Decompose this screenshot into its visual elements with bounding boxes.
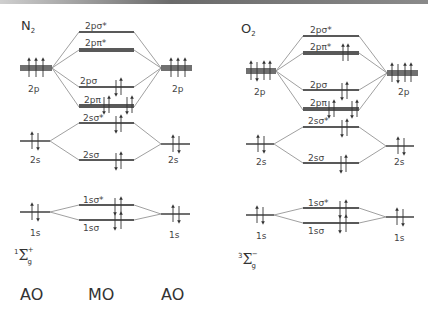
n2-mo-label: 2pσ <box>80 76 97 86</box>
o2-title: O2 <box>241 21 256 38</box>
o2-mo-label: 2pπ <box>310 98 327 108</box>
n2-ao-levels <box>20 66 192 214</box>
ao-left-label: AO <box>20 285 43 304</box>
o2-ao-2p-left: 2p <box>254 87 266 97</box>
n2-mo-label: 2pπ* <box>85 38 107 48</box>
ao-right-label: AO <box>161 285 184 304</box>
n2-mo-label: 2sσ <box>83 150 99 160</box>
n2-ao-2s-right: 2s <box>168 155 179 165</box>
n2-ao-2p-right: 2p <box>172 84 184 94</box>
n2-term-symbol: 1Σg+ <box>14 246 34 266</box>
o2-mo-label: 2pπ* <box>310 42 332 52</box>
o2-ao-2s-right: 2s <box>394 157 405 167</box>
o2-mo-label: 2pσ* <box>310 25 332 35</box>
n2-mo-label: 1sσ <box>83 223 99 233</box>
n2-ao-2s-left: 2s <box>30 155 41 165</box>
o2-mo-label: 1sσ* <box>308 198 329 208</box>
o2-ao-1s-left: 1s <box>256 231 267 241</box>
o2-mo-label: 1sσ <box>308 226 324 236</box>
n2-diagram: N2 <box>14 18 192 266</box>
n2-mo-label: 2sσ* <box>83 113 104 123</box>
o2-diagram: O2 2pσ* 2pπ* 2 <box>238 21 418 270</box>
n2-correlation-lines <box>50 32 161 220</box>
o2-mo-levels <box>303 36 359 223</box>
n2-title: N2 <box>21 18 35 35</box>
o2-ao-2s-left: 2s <box>256 157 267 167</box>
n2-mo-levels <box>79 32 134 220</box>
o2-ao-1s-right: 1s <box>394 233 405 243</box>
o2-mo-label: 2sσ* <box>308 116 329 126</box>
o2-correlation-lines <box>274 36 387 223</box>
n2-ao-1s-right: 1s <box>169 230 180 240</box>
o2-ao-2p-right: 2p <box>398 87 410 97</box>
n2-mo-label: 2pσ* <box>85 21 107 31</box>
n2-mo-label: 2pπ <box>84 95 101 105</box>
n2-mo-label: 1sσ* <box>83 195 104 205</box>
o2-ao-levels <box>246 69 418 217</box>
mo-label: MO <box>88 285 114 304</box>
n2-ao-2p-left: 2p <box>28 84 40 94</box>
o2-mo-label: 2sσ <box>308 153 324 163</box>
mo-diagram-canvas: N2 <box>0 0 428 319</box>
o2-term-symbol: 3Σg− <box>238 250 258 270</box>
o2-mo-label: 2pσ <box>310 80 327 90</box>
n2-ao-1s-left: 1s <box>30 228 41 238</box>
